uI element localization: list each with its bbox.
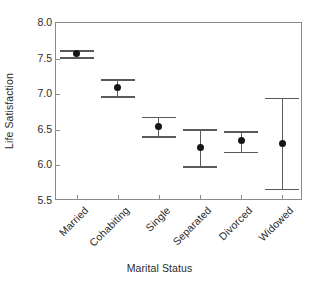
y-axis-tick-label: 7.5 [22,52,52,63]
error-bar-lower-cap [60,57,94,59]
y-axis-tick-label: 8.0 [22,17,52,28]
plot-area [55,22,302,200]
x-axis-category-label-text: Single [143,204,173,234]
y-axis-title: Life Satisfaction [0,0,18,222]
life-satisfaction-by-marital-status-chart: Life Satisfaction 8.07.57.06.56.05.5 Mar… [0,0,319,290]
y-axis-tick-label: 6.5 [22,124,52,135]
error-bar-lower-cap [224,152,258,154]
data-point-marker [73,50,80,57]
y-axis-tick-mark [56,59,60,60]
x-axis-category-label-text: Widowed [256,204,296,244]
x-axis-category-label-text: Divorced [216,204,254,242]
error-bar-lower-cap [142,136,176,138]
x-axis-category-label-text: Cohabiting [87,204,132,249]
y-axis-tick-mark [56,94,60,95]
data-point-marker [114,84,121,91]
error-bar-upper-cap [224,131,258,133]
x-axis-title: Marital Status [0,262,319,274]
x-axis-tick-mark [282,195,283,199]
error-bar-upper-cap [183,129,217,131]
x-axis-tick-mark [200,195,201,199]
x-axis-tick-mark [77,195,78,199]
error-bar-upper-cap [265,98,299,100]
data-point-marker [238,137,245,144]
y-axis-tick-label: 5.5 [22,195,52,206]
y-axis-tick-mark [56,165,60,166]
data-point-marker [197,144,204,151]
error-bar-lower-cap [101,96,135,98]
y-axis-tick-mark [56,130,60,131]
y-axis-tick-label: 6.0 [22,159,52,170]
y-axis-tick-labels: 8.07.57.06.56.05.5 [18,0,52,290]
y-axis-tick-label: 7.0 [22,88,52,99]
error-bar-lower-cap [183,166,217,168]
x-axis-tick-mark [241,195,242,199]
x-axis-category-label-text: Separated [170,204,213,247]
error-bar-upper-cap [101,79,135,81]
x-axis-tick-labels: MarriedCohabitingSingleSeparatedDivorced… [55,200,302,256]
y-axis-title-text: Life Satisfaction [3,73,15,149]
data-point-marker [155,123,162,130]
x-axis-tick-mark [118,195,119,199]
x-axis-category-label-text: Married [56,204,90,238]
x-axis-tick-mark [159,195,160,199]
data-point-marker [279,140,286,147]
error-bar-upper-cap [142,117,176,119]
